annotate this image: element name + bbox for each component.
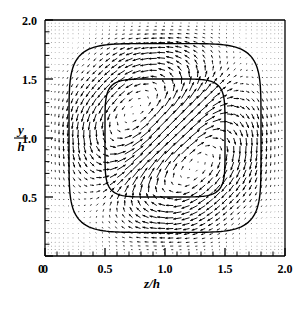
velocity-vector bbox=[282, 205, 283, 206]
velocity-vector bbox=[63, 223, 64, 224]
velocity-vector bbox=[282, 34, 283, 35]
velocity-vector bbox=[51, 249, 52, 250]
velocity-vector bbox=[257, 42, 258, 43]
velocity-vector bbox=[59, 47, 60, 48]
velocity-vector bbox=[78, 34, 79, 35]
velocity-vector bbox=[59, 42, 60, 43]
velocity-vector bbox=[271, 34, 272, 35]
velocity-vector bbox=[63, 42, 64, 43]
velocity-vector bbox=[262, 233, 263, 234]
velocity-vector bbox=[233, 253, 234, 254]
velocity-vector bbox=[282, 199, 283, 200]
velocity-vector bbox=[266, 253, 267, 254]
y-axis-title-numerator: y bbox=[16, 122, 24, 137]
velocity-vector bbox=[257, 38, 258, 39]
velocity-vector bbox=[275, 58, 276, 59]
velocity-vector bbox=[275, 249, 276, 250]
velocity-vector bbox=[73, 34, 74, 35]
velocity-vector bbox=[266, 23, 267, 24]
velocity-vector bbox=[84, 238, 85, 239]
velocity-vector bbox=[96, 253, 97, 254]
velocity-vector bbox=[278, 246, 279, 247]
velocity-vector bbox=[278, 42, 279, 43]
velocity-vector bbox=[227, 253, 228, 254]
velocity-vector bbox=[278, 26, 279, 27]
velocity-vector bbox=[115, 34, 117, 35]
velocity-vector bbox=[68, 253, 69, 254]
velocity-vector bbox=[68, 26, 69, 27]
velocity-vector bbox=[251, 26, 252, 27]
velocity-vector bbox=[278, 228, 279, 229]
velocity-vector bbox=[48, 228, 49, 229]
velocity-vector bbox=[48, 238, 49, 239]
origin-tick-label: 0 bbox=[38, 262, 44, 276]
velocity-vector bbox=[63, 26, 64, 27]
velocity-vector bbox=[271, 58, 272, 59]
velocity-vector bbox=[48, 26, 49, 27]
velocity-vector bbox=[78, 26, 79, 27]
velocity-vector bbox=[96, 23, 97, 24]
velocity-vector bbox=[63, 249, 64, 250]
velocity-vector bbox=[266, 34, 267, 35]
velocity-vector bbox=[251, 253, 252, 254]
velocity-vector bbox=[51, 238, 52, 239]
velocity-vector bbox=[84, 211, 85, 212]
velocity-vector bbox=[257, 47, 258, 48]
velocity-vector bbox=[251, 42, 252, 43]
velocity-vector bbox=[282, 58, 283, 59]
velocity-vector bbox=[63, 23, 64, 24]
velocity-vector bbox=[262, 246, 263, 247]
y-tick-label: 1.5 bbox=[22, 73, 37, 87]
velocity-vector bbox=[48, 205, 49, 206]
velocity-vector bbox=[110, 23, 111, 24]
velocity-vector bbox=[275, 253, 276, 254]
velocity-vector bbox=[266, 249, 267, 250]
velocity-vector bbox=[122, 34, 125, 35]
velocity-vector bbox=[240, 253, 241, 254]
velocity-vector bbox=[84, 26, 85, 27]
velocity-vector bbox=[48, 42, 49, 43]
velocity-vector bbox=[267, 70, 268, 71]
velocity-vector bbox=[59, 249, 60, 250]
figure-container: 00.51.01.52.00.51.01.52.00 z/h y h bbox=[0, 0, 302, 314]
velocity-vector bbox=[270, 170, 271, 173]
velocity-vector bbox=[130, 242, 133, 243]
velocity-vector bbox=[78, 228, 79, 229]
velocity-vector bbox=[55, 253, 56, 254]
velocity-vector bbox=[55, 242, 56, 243]
velocity-vector bbox=[84, 246, 85, 247]
velocity-vector bbox=[73, 246, 74, 247]
velocity-vector bbox=[275, 52, 276, 53]
velocity-vector bbox=[59, 106, 60, 109]
velocity-vector bbox=[110, 253, 111, 254]
velocity-vector bbox=[240, 23, 241, 24]
velocity-vector bbox=[282, 233, 283, 234]
velocity-vector bbox=[51, 242, 52, 243]
velocity-vector bbox=[51, 64, 52, 65]
velocity-vector bbox=[246, 249, 247, 250]
velocity-vector bbox=[48, 52, 49, 53]
velocity-vector bbox=[257, 253, 258, 254]
velocity-vector bbox=[271, 52, 272, 53]
velocity-vector bbox=[59, 217, 60, 218]
velocity-vector bbox=[275, 42, 276, 43]
velocity-vector bbox=[262, 242, 263, 243]
velocity-vector bbox=[68, 38, 69, 39]
velocity-vector bbox=[73, 38, 74, 39]
velocity-vector bbox=[78, 23, 79, 24]
velocity-vector bbox=[84, 217, 85, 218]
velocity-vector bbox=[55, 249, 56, 250]
velocity-vector bbox=[51, 233, 52, 234]
velocity-vector bbox=[203, 33, 205, 34]
velocity-vector bbox=[59, 238, 60, 239]
velocity-vector bbox=[271, 233, 272, 234]
velocity-vector bbox=[51, 42, 52, 43]
velocity-vector bbox=[271, 38, 272, 39]
velocity-vector bbox=[68, 238, 69, 239]
velocity-vector bbox=[271, 228, 272, 229]
velocity-vector bbox=[271, 23, 272, 24]
velocity-vector bbox=[55, 223, 56, 224]
velocity-vector bbox=[240, 249, 241, 250]
velocity-vector bbox=[59, 52, 60, 53]
velocity-vector bbox=[51, 223, 52, 224]
